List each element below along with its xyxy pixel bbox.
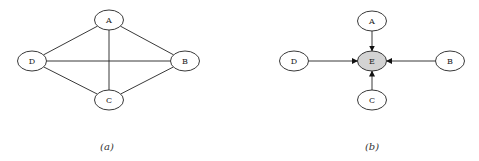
node-c: C xyxy=(358,90,387,110)
panel-a-undirected-graph: ABCD (a) xyxy=(18,10,200,152)
node-label: C xyxy=(369,96,375,105)
node-b: B xyxy=(436,51,465,71)
node-label: E xyxy=(369,57,375,66)
edge-a-d xyxy=(43,26,97,55)
node-label: D xyxy=(29,57,35,66)
panel-b-directed-graph: ABCDE (b) xyxy=(280,11,465,152)
edge-c-d xyxy=(44,67,98,94)
edge-b-c xyxy=(121,67,174,94)
node-label: A xyxy=(105,16,112,25)
node-label: A xyxy=(368,17,375,26)
node-label: C xyxy=(106,96,112,105)
panel-a-nodes: ABCD xyxy=(18,10,200,110)
panel-a-edges xyxy=(43,26,173,94)
edge-a-b xyxy=(120,26,173,55)
panel-a-caption: (a) xyxy=(100,141,114,152)
node-label: D xyxy=(291,57,297,66)
node-a: A xyxy=(95,10,124,30)
node-label: B xyxy=(182,57,188,66)
node-a: A xyxy=(358,11,387,31)
panel-b-caption: (b) xyxy=(365,141,379,152)
node-b: B xyxy=(171,51,200,71)
node-d: D xyxy=(280,51,309,71)
node-label: B xyxy=(447,57,453,66)
panel-b-nodes: ABCDE xyxy=(280,11,465,110)
node-e: E xyxy=(358,51,387,71)
node-d: D xyxy=(18,51,47,71)
figure-canvas: ABCD (a) ABCDE (b) xyxy=(0,0,479,161)
node-c: C xyxy=(95,90,124,110)
